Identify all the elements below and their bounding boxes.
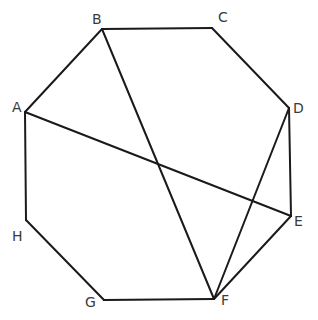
vertex-label-f: F — [221, 292, 229, 308]
side-de — [289, 108, 291, 216]
diagonal-df — [214, 108, 289, 299]
side-ha — [25, 112, 26, 220]
vertex-label-b: B — [92, 11, 102, 27]
side-bc — [102, 28, 212, 29]
side-cd — [212, 28, 289, 108]
vertex-label-e: E — [294, 213, 303, 229]
vertex-label-g: G — [85, 294, 96, 310]
vertex-label-d: D — [293, 100, 304, 116]
vertex-labels-group: ABCDEFGH — [12, 9, 304, 310]
vertex-label-h: H — [12, 228, 23, 244]
edges-group — [25, 28, 291, 300]
side-fg — [104, 299, 214, 300]
vertex-label-c: C — [218, 9, 228, 25]
side-gh — [26, 220, 104, 300]
vertex-label-a: A — [12, 99, 22, 115]
side-ab — [25, 29, 102, 112]
diagonal-bf — [102, 29, 214, 299]
octagon-diagram: ABCDEFGH — [0, 0, 318, 320]
side-ef — [214, 216, 291, 299]
